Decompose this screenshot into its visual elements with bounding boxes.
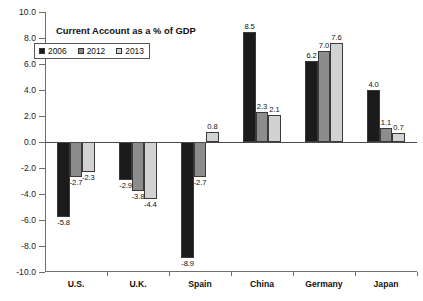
bar-value-label: -2.7 — [70, 178, 83, 187]
bar-value-label: -2.3 — [82, 173, 95, 182]
bar-value-label: -4.4 — [144, 200, 157, 209]
legend-label: 2013 — [125, 46, 144, 56]
y-axis-tick-label: -4.0 — [21, 189, 36, 199]
y-axis-tick — [39, 12, 45, 13]
bar — [367, 90, 379, 142]
bar-value-label: 8.5 — [244, 22, 254, 31]
bar — [330, 43, 342, 142]
y-axis-tick — [39, 38, 45, 39]
x-axis-tick — [417, 272, 418, 276]
x-axis-tick — [293, 272, 294, 276]
bar — [318, 51, 330, 142]
current-account-bar-chart: 10.08.06.04.02.00.0-2.0-4.0-6.0-8.0-10.0… — [0, 0, 423, 301]
bar-value-label: 0.8 — [207, 122, 217, 131]
y-axis-tick — [39, 246, 45, 247]
x-axis-label-u-k: U.K. — [129, 279, 146, 289]
x-axis-label-spain: Spain — [188, 279, 211, 289]
y-axis-tick-label: 4.0 — [24, 85, 36, 95]
y-axis-tick — [39, 272, 45, 273]
bar — [256, 112, 268, 142]
bar-value-label: 2.1 — [269, 105, 279, 114]
bar-value-label: 7.6 — [331, 33, 341, 42]
bar — [305, 61, 317, 142]
bar-value-label: -2.9 — [119, 181, 132, 190]
bar-value-label: 2.3 — [257, 102, 267, 111]
bar-value-label: 4.0 — [368, 80, 378, 89]
bar — [206, 132, 218, 142]
bar — [57, 142, 69, 217]
y-axis-tick — [39, 220, 45, 221]
legend-swatch-icon — [78, 48, 84, 54]
bar — [144, 142, 156, 199]
chart-legend: 200620122013 — [34, 43, 150, 59]
y-axis-tick-label: -10.0 — [16, 267, 36, 277]
bar-value-label: 0.7 — [393, 123, 403, 132]
bar — [82, 142, 94, 172]
legend-item-2012: 2012 — [78, 46, 106, 56]
bar-value-label: 1.1 — [381, 118, 391, 127]
x-axis-tick — [107, 272, 108, 276]
y-axis-tick — [39, 116, 45, 117]
x-axis-tick — [355, 272, 356, 276]
bar — [243, 32, 255, 143]
y-axis-tick-label: 6.0 — [24, 59, 36, 69]
x-axis-label-u-s: U.S. — [68, 279, 85, 289]
x-axis-label-china: China — [250, 279, 274, 289]
bar-value-label: -5.8 — [57, 218, 70, 227]
bar — [380, 128, 392, 142]
legend-swatch-icon — [116, 48, 122, 54]
y-axis-tick-label: 8.0 — [24, 33, 36, 43]
zero-baseline — [45, 142, 417, 143]
bar — [119, 142, 131, 180]
x-axis-label-germany: Germany — [305, 279, 342, 289]
legend-swatch-icon — [39, 48, 45, 54]
y-axis-tick-label: 2.0 — [24, 111, 36, 121]
bar — [181, 142, 193, 258]
legend-item-2006: 2006 — [39, 46, 67, 56]
y-axis-tick — [39, 64, 45, 65]
y-axis-tick-label: -8.0 — [21, 241, 36, 251]
y-axis-tick — [39, 90, 45, 91]
y-axis-tick-label: 10.0 — [19, 7, 36, 17]
chart-title: Current Account as a % of GDP — [56, 25, 196, 36]
bar — [268, 115, 280, 142]
legend-label: 2012 — [87, 46, 106, 56]
y-axis-tick — [39, 168, 45, 169]
bar-value-label: 7.0 — [319, 41, 329, 50]
bar-value-label: -8.9 — [181, 259, 194, 268]
y-axis-tick-label: -2.0 — [21, 163, 36, 173]
x-axis-tick — [169, 272, 170, 276]
x-axis-tick — [231, 272, 232, 276]
bar-value-label: -3.8 — [132, 192, 145, 201]
bar — [194, 142, 206, 177]
bar — [392, 133, 404, 142]
legend-label: 2006 — [48, 46, 67, 56]
bar-value-label: 6.2 — [306, 51, 316, 60]
bar — [70, 142, 82, 177]
bar — [132, 142, 144, 191]
bar-value-label: -2.7 — [194, 178, 207, 187]
y-axis-tick-label: -6.0 — [21, 215, 36, 225]
legend-item-2013: 2013 — [116, 46, 144, 56]
x-axis-label-japan: Japan — [374, 279, 399, 289]
y-axis-tick-label: 0.0 — [24, 137, 36, 147]
y-axis-tick — [39, 194, 45, 195]
